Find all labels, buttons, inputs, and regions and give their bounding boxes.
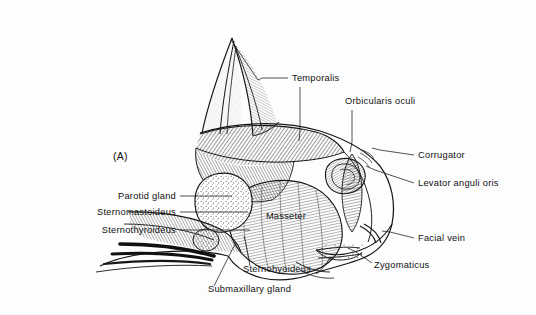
label-sternohyoideus: Sternohyoideus	[243, 264, 311, 274]
label-levator-anguli-oris: Levator anguli oris	[418, 178, 499, 188]
label-masseter: Masseter	[266, 211, 306, 221]
anatomical-figure: TemporalisOrbicularis oculiCorrugatorLev…	[0, 0, 536, 315]
leader-temporalis	[258, 78, 288, 80]
label-sternothyroideus: Sternothyroideus	[102, 225, 176, 235]
zygomaticus-muscle	[316, 244, 366, 260]
leader-levator	[366, 166, 414, 183]
label-facial-vein: Facial vein	[418, 233, 465, 243]
label-submaxillary-gland: Submaxillary gland	[208, 284, 291, 294]
panel-marker: (A)	[113, 150, 128, 162]
label-temporalis: Temporalis	[292, 73, 340, 83]
label-sternomastoideus: Sternomastoideus	[97, 207, 176, 217]
label-parotid-gland: Parotid gland	[118, 191, 176, 201]
leader-corrugator	[372, 148, 414, 155]
leader-orbicularis	[350, 110, 352, 152]
figure-canvas: TemporalisOrbicularis oculiCorrugatorLev…	[0, 0, 536, 315]
label-zygomaticus: Zygomaticus	[374, 260, 430, 270]
label-orbicularis-oculi: Orbicularis oculi	[345, 96, 415, 106]
label-corrugator: Corrugator	[418, 150, 465, 160]
